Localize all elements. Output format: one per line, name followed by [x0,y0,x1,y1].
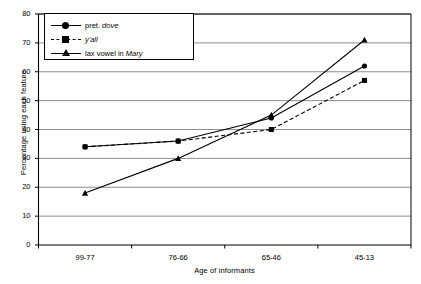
legend-item-2: y'all [51,32,98,46]
data-point [362,63,367,68]
x-axis-title: Age of informants [38,266,411,275]
y-tick-label: 70 [3,38,31,47]
data-point [83,144,88,149]
legend-item-3: lax vowel in Mary [51,46,143,60]
legend-marker-icon [51,34,81,44]
legend-marker-icon [51,20,81,30]
x-tick-label: 65-46 [236,253,306,262]
legend-label: y'all [85,35,98,44]
chart-container: Percentage using each feature Age of inf… [0,0,421,284]
y-tick-label: 60 [3,67,31,76]
y-tick-label: 80 [3,9,31,18]
series-line [85,40,364,193]
data-point [361,37,367,43]
chart-legend: pret. dovey'alllax vowel in Mary [44,13,194,60]
y-tick-label: 50 [3,96,31,105]
data-point [269,127,274,132]
y-tick-label: 20 [3,182,31,191]
legend-label: pret. dove [85,21,118,30]
data-point [176,139,181,144]
legend-item-1: pret. dove [51,18,118,32]
legend-marker-icon [51,48,81,58]
x-tick-label: 45-13 [329,253,399,262]
y-tick-label: 10 [3,211,31,220]
legend-label: lax vowel in Mary [85,49,143,58]
x-tick-label: 99-77 [50,253,120,262]
data-point [362,78,367,83]
y-tick-label: 30 [3,153,31,162]
data-series-group [82,37,368,196]
series-3 [82,37,368,196]
y-tick-label: 0 [3,240,31,249]
x-tick-label: 76-66 [143,253,213,262]
series-line [85,66,364,147]
y-tick-label: 40 [3,125,31,134]
